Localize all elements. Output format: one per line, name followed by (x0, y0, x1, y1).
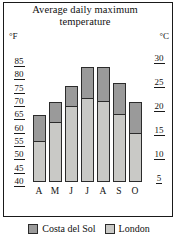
bar-segment-london (34, 141, 45, 181)
y-tick-f-label: 45 (14, 164, 25, 174)
y-tick-c-label: 20 (154, 102, 165, 112)
legend-swatch-costa-del-sol (28, 224, 38, 234)
y-tick-c-label: 15 (154, 126, 165, 136)
y-tick-c-25: 25 (149, 78, 169, 88)
bar-segment-costa-del-sol (34, 116, 45, 143)
bar-segment-costa-del-sol (82, 68, 93, 100)
x-axis-label-6: O (132, 186, 139, 196)
y-tick-f-label: 70 (14, 97, 25, 107)
bar-segment-costa-del-sol (66, 87, 77, 108)
y-tick-c-30: 30 (149, 54, 169, 64)
y-tick-f-45: 45 (9, 164, 29, 174)
legend-item-london: London (105, 223, 150, 234)
chart-legend: Costa del Sol London (0, 223, 178, 234)
y-tick-c-label: 30 (154, 54, 165, 64)
bar-4 (97, 67, 110, 182)
x-axis-label-3: J (85, 186, 89, 196)
legend-label-london: London (119, 223, 150, 234)
bar-segment-london (98, 101, 109, 181)
x-axis-label-4: A (100, 186, 107, 196)
legend-swatch-london (105, 224, 115, 234)
bar-segment-costa-del-sol (130, 103, 141, 135)
bar-5 (113, 83, 126, 182)
x-axis-label-2: J (69, 186, 73, 196)
x-axis-label-1: M (51, 186, 59, 196)
bar-0 (33, 115, 46, 182)
y-tick-f-label: 40 (14, 177, 25, 187)
y-tick-f-70: 70 (9, 97, 29, 107)
y-tick-f-label: 60 (14, 124, 25, 134)
y-tick-c-label: 5 (156, 174, 163, 184)
x-axis-label-5: S (116, 186, 121, 196)
plot-area (31, 62, 143, 182)
bar-segment-london (82, 98, 93, 181)
y-tick-f-label: 55 (14, 137, 25, 147)
bar-segment-london (66, 106, 77, 181)
y-tick-f-55: 55 (9, 137, 29, 147)
bar-segment-london (50, 122, 61, 181)
y-tick-c-15: 15 (149, 126, 169, 136)
bar-segment-london (114, 114, 125, 181)
y-tick-f-50: 50 (9, 150, 29, 160)
y-tick-c-5: 5 (149, 174, 169, 184)
y-tick-c-20: 20 (149, 102, 169, 112)
y-tick-f-label: 50 (14, 150, 25, 160)
y-tick-f-80: 80 (9, 70, 29, 80)
y-tick-f-label: 75 (14, 84, 25, 94)
y-tick-f-40: 40 (9, 177, 29, 187)
y-tick-f-label: 80 (14, 70, 25, 80)
bar-segment-costa-del-sol (50, 103, 61, 124)
y-tick-f-85: 85 (9, 57, 29, 67)
y-tick-f-75: 75 (9, 84, 29, 94)
y-tick-c-label: 10 (154, 150, 165, 160)
bar-segment-costa-del-sol (98, 68, 109, 103)
bar-segment-london (130, 133, 141, 181)
y-tick-f-label: 65 (14, 110, 25, 120)
y-tick-c-label: 25 (154, 78, 165, 88)
chart-title: Average daily maximum temperature (8, 4, 162, 27)
y-tick-f-65: 65 (9, 110, 29, 120)
bar-1 (49, 102, 62, 182)
bar-2 (65, 86, 78, 182)
y-tick-c-10: 10 (149, 150, 169, 160)
legend-item-costa-del-sol: Costa del Sol (28, 223, 95, 234)
bar-segment-costa-del-sol (114, 84, 125, 116)
y-tick-f-label: 85 (14, 57, 25, 67)
y-axis-unit-celsius: °C (159, 31, 169, 41)
chart-container: Average daily maximum temperature °F °C … (0, 0, 178, 252)
bar-6 (129, 102, 142, 182)
bar-3 (81, 67, 94, 182)
y-tick-f-60: 60 (9, 124, 29, 134)
legend-label-costa-del-sol: Costa del Sol (42, 223, 95, 234)
y-axis-unit-fahrenheit: °F (9, 31, 18, 41)
x-axis-label-0: A (36, 186, 43, 196)
